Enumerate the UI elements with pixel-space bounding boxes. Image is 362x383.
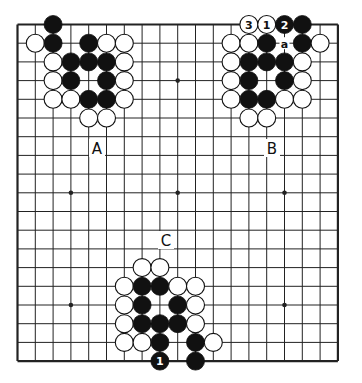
black-stone: [293, 16, 311, 34]
move-number-1: 1: [263, 19, 271, 32]
black-stone: [80, 34, 98, 52]
black-stone: [169, 315, 187, 333]
white-stone: [204, 333, 222, 351]
white-stone: [115, 90, 133, 108]
star-point: [175, 191, 180, 196]
black-stone: [44, 16, 62, 34]
white-stone: [240, 109, 258, 127]
black-stone: [133, 296, 151, 314]
black-stone: [169, 296, 187, 314]
white-stone: [115, 34, 133, 52]
white-stone: [276, 90, 294, 108]
white-stone: [80, 109, 98, 127]
black-stone: [240, 90, 258, 108]
white-stone: [222, 34, 240, 52]
white-stone: [187, 296, 205, 314]
white-stone: [293, 90, 311, 108]
white-stone: [26, 34, 44, 52]
point-markers: a: [280, 37, 290, 51]
black-stone: [258, 53, 276, 71]
black-stone: [293, 34, 311, 52]
white-stone: [44, 53, 62, 71]
white-stone: [98, 34, 116, 52]
star-point: [282, 191, 287, 196]
white-stone: [222, 53, 240, 71]
black-stone: [44, 34, 62, 52]
white-stone: [44, 90, 62, 108]
white-stone: [258, 109, 276, 127]
star-point: [69, 303, 74, 308]
white-stone: [169, 277, 187, 295]
white-stone: [240, 34, 258, 52]
star-point: [282, 303, 287, 308]
white-stone: [98, 109, 116, 127]
black-stone: [276, 53, 294, 71]
white-stone: [115, 72, 133, 90]
black-stone: [258, 90, 276, 108]
white-stone: [293, 53, 311, 71]
black-stone: [62, 53, 80, 71]
move-number-1: 1: [156, 355, 164, 368]
star-point: [69, 191, 74, 196]
white-stone: [115, 277, 133, 295]
black-stone: [276, 72, 294, 90]
region-label-b: B: [267, 140, 277, 158]
white-stone: [187, 315, 205, 333]
go-board: 3121 a ABC: [0, 0, 362, 383]
black-stone: [151, 333, 169, 351]
black-stone: [98, 53, 116, 71]
white-stone: [115, 315, 133, 333]
white-stone: [222, 90, 240, 108]
white-stone: [115, 333, 133, 351]
black-stone: [133, 277, 151, 295]
white-stone: [115, 53, 133, 71]
black-stone: [62, 72, 80, 90]
black-stone: [240, 72, 258, 90]
white-stone: [293, 72, 311, 90]
black-stone: [98, 72, 116, 90]
region-label-a: A: [92, 140, 103, 158]
white-stone: [311, 34, 329, 52]
white-stone: [44, 72, 62, 90]
black-stone: [151, 315, 169, 333]
black-stone: [187, 333, 205, 351]
white-stone: [151, 259, 169, 277]
point-marker-a: a: [281, 38, 288, 51]
black-stone: [133, 315, 151, 333]
white-stone: [187, 277, 205, 295]
white-stone: [133, 333, 151, 351]
white-stone: [115, 296, 133, 314]
white-stone: [62, 90, 80, 108]
black-stone: [151, 277, 169, 295]
black-stone: [98, 90, 116, 108]
black-stone: [80, 53, 98, 71]
black-stone: [240, 53, 258, 71]
black-stone: [187, 352, 205, 370]
star-point: [175, 78, 180, 83]
white-stone: [222, 72, 240, 90]
move-number-3: 3: [245, 19, 253, 32]
white-stone: [133, 259, 151, 277]
region-label-c: C: [161, 232, 171, 250]
black-stone: [80, 90, 98, 108]
black-stone: [258, 34, 276, 52]
move-number-2: 2: [281, 19, 289, 32]
